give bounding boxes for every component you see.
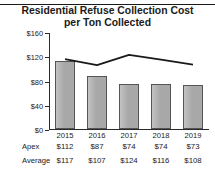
table-cell-apex-2017: $74: [122, 142, 135, 151]
chart-title-line-2: per Ton Collected: [0, 17, 215, 29]
table-row-label-apex: Apex: [22, 142, 39, 151]
table-cell-average-2015: $117: [57, 156, 74, 165]
plot-area: $0$40$80$120$160: [49, 33, 209, 130]
table-cell-apex-2019: $73: [186, 142, 199, 151]
table-cell-average-2018: $116: [153, 156, 170, 165]
x-axis-label-2018: 2018: [153, 131, 170, 140]
y-tick-label: $160: [27, 29, 43, 38]
table-row-average: Average $117$107$124$116$108: [0, 156, 215, 170]
chart-figure: Residential Refuse Collection Cost per T…: [0, 0, 215, 170]
x-axis-labels: 20152016201720182019: [49, 131, 209, 142]
y-tick-label: $40: [31, 101, 43, 110]
y-tick-label: $0: [35, 126, 43, 135]
chart-title: Residential Refuse Collection Cost per T…: [0, 5, 215, 28]
chart-title-line-1: Residential Refuse Collection Cost: [21, 5, 193, 16]
table-cell-average-2016: $107: [88, 156, 105, 165]
x-axis-label-2017: 2017: [121, 131, 138, 140]
y-tick-label: $120: [27, 53, 43, 62]
table-row-label-average: Average: [22, 156, 50, 165]
table-cell-apex-2018: $74: [154, 142, 167, 151]
x-axis-label-2015: 2015: [57, 131, 74, 140]
table-cell-average-2019: $108: [184, 156, 201, 165]
table-cell-apex-2015: $112: [57, 142, 74, 151]
table-cell-average-2017: $124: [120, 156, 137, 165]
table-cell-apex-2016: $87: [90, 142, 103, 151]
average-trend-line: [65, 55, 193, 65]
line-series-average: [49, 33, 209, 130]
x-axis-label-2019: 2019: [185, 131, 202, 140]
y-tick-label: $80: [31, 77, 43, 86]
table-row-apex: Apex $112$87$74$74$73: [0, 142, 215, 156]
x-axis-label-2016: 2016: [89, 131, 106, 140]
